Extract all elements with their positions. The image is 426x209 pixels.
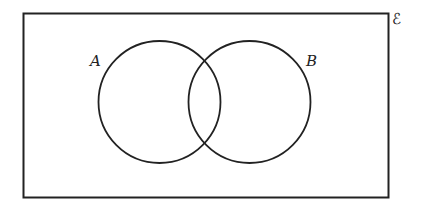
set-b-label: B: [305, 52, 317, 70]
set-b-circle: [189, 41, 311, 163]
set-a-label: A: [88, 52, 101, 70]
universal-set-rectangle: [24, 14, 389, 198]
set-a-circle: [99, 41, 221, 163]
venn-diagram: ℰ A B: [0, 0, 426, 209]
universal-set-symbol: ℰ: [392, 10, 401, 28]
